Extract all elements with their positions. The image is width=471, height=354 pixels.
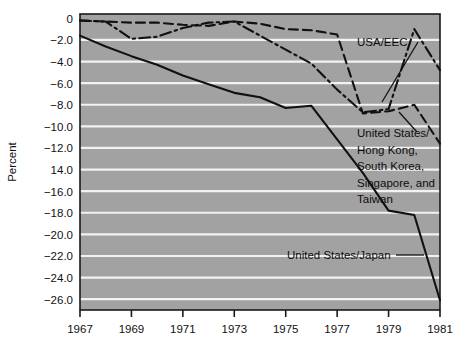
line-chart-svg: 0−2.0−4.0−6.0−8.0−10.0−12.014.0−16.0−18.… [0, 0, 471, 354]
y-axis-tick-label: 14.0 [51, 164, 73, 176]
annotation-usa-eec: USA/EEC [357, 36, 408, 48]
y-axis-tick-label: −2.0 [50, 34, 73, 46]
annotation-nics-line-3: South Korea, [357, 160, 424, 172]
annotation-nics-line-1: United States/ [357, 127, 430, 139]
y-axis-tick-label: −4.0 [50, 56, 73, 68]
x-axis-tick-label: 1973 [221, 323, 247, 335]
y-axis-tick-label: −24.0 [44, 272, 73, 284]
y-axis-title: Percent [6, 141, 18, 181]
annotation-nics-line-2: Hong Kong, [357, 144, 418, 156]
annotation-nics-line-4: Singapore, and [357, 177, 435, 189]
y-axis-tick-label: −20.0 [44, 229, 73, 241]
x-axis-tick-label: 1969 [119, 323, 145, 335]
x-axis-tick-label: 1975 [273, 323, 299, 335]
y-axis-tick-label: 0 [67, 13, 73, 25]
x-axis-tick-label: 1971 [170, 323, 196, 335]
y-axis-tick-label: −18.0 [44, 207, 73, 219]
y-axis-tick-label: −6.0 [50, 78, 73, 90]
annotation-united-states-japan: United States/Japan [287, 249, 391, 261]
y-axis-tick-label: −8.0 [50, 99, 73, 111]
y-axis-tick-label: −22.0 [44, 250, 73, 262]
x-axis-tick-label: 1981 [427, 323, 453, 335]
x-axis-tick-label: 1977 [324, 323, 350, 335]
y-axis-tick-label: −12.0 [44, 142, 73, 154]
x-axis-tick-label: 1979 [376, 323, 402, 335]
y-axis-tick-label: −16.0 [44, 186, 73, 198]
y-axis-tick-label: −10.0 [44, 121, 73, 133]
annotation-nics-line-5: Taiwan [357, 193, 393, 205]
y-axis-tick-label: −26.0 [44, 294, 73, 306]
chart-figure: 0−2.0−4.0−6.0−8.0−10.0−12.014.0−16.0−18.… [0, 0, 471, 354]
x-axis-tick-label: 1967 [67, 323, 93, 335]
